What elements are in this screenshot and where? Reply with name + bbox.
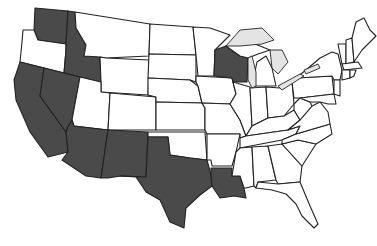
state-montana: Montana: [75, 12, 150, 58]
state-north-dakota: North Dakota: [149, 24, 196, 55]
state-washington: Washington: [34, 8, 68, 44]
state-colorado: Colorado: [108, 93, 156, 130]
state-new-jersey: New Jersey: [334, 80, 340, 96]
state-arizona: Arizona: [62, 120, 108, 178]
state-kansas: Kansas: [156, 102, 205, 130]
state-connecticut: Connecticut: [342, 70, 350, 80]
state-massachusetts: Massachusetts: [342, 62, 362, 70]
state-new-mexico: New Mexico: [101, 130, 148, 178]
state-iowa: Iowa: [196, 76, 236, 104]
state-wyoming: Wyoming: [100, 57, 149, 95]
states-layer: WashingtonOregonIdahoMontanaWyomingCalif…: [14, 8, 376, 228]
us-map: WashingtonOregonIdahoMontanaWyomingCalif…: [0, 0, 377, 246]
state-maine: Maine: [352, 18, 376, 62]
state-florida: Florida: [256, 182, 318, 228]
lake-superior: [226, 28, 274, 46]
lake-michigan: [248, 56, 256, 88]
state-rhode-island: Rhode Island: [350, 70, 356, 78]
